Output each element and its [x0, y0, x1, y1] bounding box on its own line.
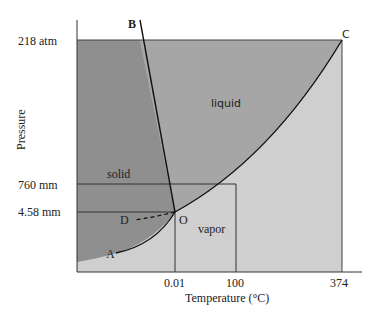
x-tick-001: 0.01: [164, 276, 185, 291]
x-tick-374: 374: [330, 276, 348, 291]
point-label-A: A: [106, 247, 115, 262]
y-tick-458mm: 4.58 mm: [18, 205, 61, 220]
point-label-B: B: [128, 17, 136, 32]
x-axis-label: Temperature (°C): [185, 291, 269, 306]
y-axis-label: Pressure: [14, 109, 29, 150]
x-tick-100: 100: [226, 276, 244, 291]
region-label-vapor: vapor: [198, 222, 225, 237]
point-label-O: O: [179, 213, 188, 228]
y-tick-218atm: 218 atm: [18, 34, 57, 49]
point-label-D: D: [120, 213, 129, 228]
point-label-C: C: [342, 28, 350, 41]
region-label-solid: solid: [107, 167, 130, 182]
y-tick-760mm: 760 mm: [18, 178, 58, 193]
phase-diagram: [0, 0, 380, 323]
region-label-liquid: liquid: [211, 97, 241, 110]
